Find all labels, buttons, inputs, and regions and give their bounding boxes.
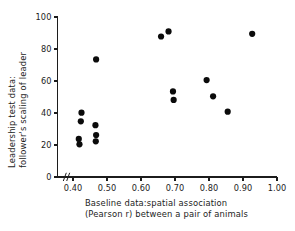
data-point — [92, 122, 98, 128]
x-axis-title-line2: (Pearson r) between a pair of animals — [85, 209, 248, 219]
data-point — [165, 28, 171, 34]
data-point — [93, 56, 99, 62]
axes-group — [58, 17, 277, 181]
x-tick-label: 0.60 — [132, 183, 151, 193]
data-point — [170, 88, 176, 94]
data-point — [78, 118, 84, 124]
x-tick-label: 0.90 — [234, 183, 253, 193]
data-point — [204, 77, 210, 83]
data-point — [249, 31, 255, 37]
data-point — [93, 138, 99, 144]
data-point — [225, 109, 231, 115]
x-tick-label: 0.50 — [98, 183, 117, 193]
x-tick-label: 0.70 — [166, 183, 185, 193]
data-point — [76, 136, 82, 142]
data-point — [76, 141, 82, 147]
chart-canvas: 0204060801000.400.500.600.700.800.901.00… — [0, 0, 295, 231]
y-tick-label: 60 — [41, 76, 52, 86]
y-tick-label: 80 — [41, 44, 52, 54]
data-point — [210, 93, 216, 99]
y-tick-label: 40 — [41, 108, 52, 118]
y-tick-label: 20 — [41, 140, 52, 150]
data-point — [93, 132, 99, 138]
x-tick-label: 1.00 — [268, 183, 287, 193]
data-point — [78, 110, 84, 116]
x-tick-label: 0.40 — [64, 183, 83, 193]
data-point — [158, 33, 164, 39]
x-tick-label: 0.80 — [200, 183, 219, 193]
y-axis-title-line2: follower's scaling of leader — [18, 51, 28, 168]
scatter-plot-figure: 0204060801000.400.500.600.700.800.901.00… — [0, 0, 295, 231]
y-tick-label: 0 — [46, 172, 51, 182]
data-point — [171, 97, 177, 103]
y-axis-title-line1: Leadership test data: — [7, 76, 17, 168]
x-axis-title-line1: Baseline data:spatial association — [85, 198, 227, 208]
y-tick-label: 100 — [36, 12, 52, 22]
ticks-group — [54, 17, 277, 181]
data-points-group — [76, 28, 256, 147]
